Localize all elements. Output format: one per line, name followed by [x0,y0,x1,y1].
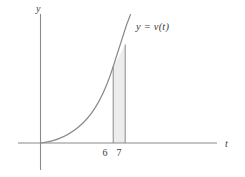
tick-label-7: 7 [117,147,122,158]
curve-label: y = v(t) [135,21,169,33]
figure-canvas: y t 6 7 y = v(t) [0,0,245,177]
y-axis-label: y [35,3,41,14]
velocity-curve-figure: y t 6 7 y = v(t) [0,0,245,177]
tick-label-6: 6 [103,147,108,158]
t-axis-label: t [225,138,228,149]
